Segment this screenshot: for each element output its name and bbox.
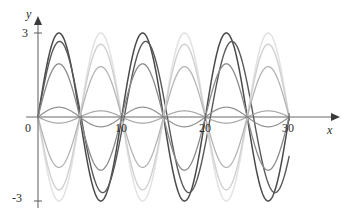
x-axis-arrow [331,113,340,121]
x-tick-label-30: 30 [282,122,294,134]
origin-label: 0 [25,122,31,134]
x-tick-label-10: 10 [115,122,127,134]
chart-figure: y x 3 -3 0 10 20 30 [0,0,348,222]
y-tick-label-minus3: -3 [12,192,22,204]
plot-canvas [0,0,348,222]
y-tick-label-3: 3 [22,27,28,39]
y-axis-label: y [26,8,31,20]
x-tick-label-20: 20 [199,122,211,134]
y-axis-arrow [34,16,42,25]
x-axis-label: x [327,124,332,136]
